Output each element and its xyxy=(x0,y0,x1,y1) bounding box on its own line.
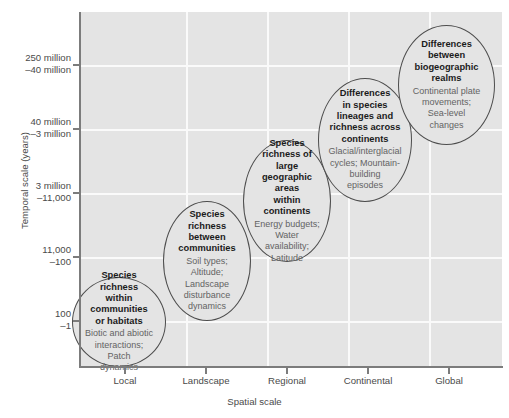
x-tick-label-local: Local xyxy=(114,375,137,386)
bubble-continental[interactable]: Differences in species lineages and rich… xyxy=(318,78,412,202)
y-tick-mark-100 xyxy=(73,320,80,322)
bubble-global[interactable]: Differences between biogeographic realms… xyxy=(398,25,495,145)
bubble-continental-title: Differences in species lineages and rich… xyxy=(330,88,401,145)
x-tick-mark-continental xyxy=(367,367,369,374)
x-tick-label-global: Global xyxy=(435,375,463,386)
bubble-local[interactable]: Species richness within communities or h… xyxy=(72,277,166,367)
y-tick-label-250million: 250 million –40 million xyxy=(25,52,71,76)
bubble-landscape-title: Species richness between communities xyxy=(173,209,241,255)
y-axis-title: Temporal scale (years) xyxy=(19,101,30,261)
figure-container: Species richness within communities or h… xyxy=(0,0,509,418)
x-tick-label-continental: Continental xyxy=(344,375,393,386)
x-tick-mark-local xyxy=(124,367,126,374)
bubble-regional[interactable]: Species richness of large geographic are… xyxy=(243,140,331,262)
x-tick-mark-regional xyxy=(286,367,288,374)
y-tick-label-11000: 11,000 –100 xyxy=(42,244,71,268)
x-axis-line xyxy=(79,366,503,368)
y-tick-label-40million: 40 million –3 million xyxy=(30,116,71,140)
plot-area: Species richness within communities or h… xyxy=(81,12,502,366)
y-tick-label-3million: 3 million –11,000 xyxy=(36,180,71,204)
bubble-regional-title: Species richness of large geographic are… xyxy=(253,138,321,218)
y-tick-mark-250million xyxy=(73,64,80,66)
x-tick-mark-landscape xyxy=(205,367,207,374)
bubble-landscape[interactable]: Species richness between communities Soi… xyxy=(163,201,251,321)
bubble-global-title: Differences between biogeographic realms xyxy=(414,39,478,85)
x-axis-title: Spatial scale xyxy=(0,396,509,407)
bubble-regional-subtitle: Energy budgets; Water availability; Lati… xyxy=(253,219,321,265)
bubble-continental-subtitle: Glacial/interglacial cycles; Mountain- b… xyxy=(328,146,401,192)
y-tick-mark-3million xyxy=(73,192,80,194)
x-tick-label-landscape: Landscape xyxy=(183,375,230,386)
x-tick-label-regional: Regional xyxy=(268,375,306,386)
y-tick-label-100: 100 –1 xyxy=(55,308,71,332)
bubble-landscape-subtitle: Soil types; Altitude; Landscape disturba… xyxy=(173,256,241,313)
x-tick-mark-global xyxy=(448,367,450,374)
y-tick-mark-40million xyxy=(73,128,80,130)
y-tick-mark-11000 xyxy=(73,256,80,258)
bubble-global-subtitle: Continental plate movements; Sea-level c… xyxy=(413,86,481,132)
bubble-local-title: Species richness within communities or h… xyxy=(82,270,156,327)
